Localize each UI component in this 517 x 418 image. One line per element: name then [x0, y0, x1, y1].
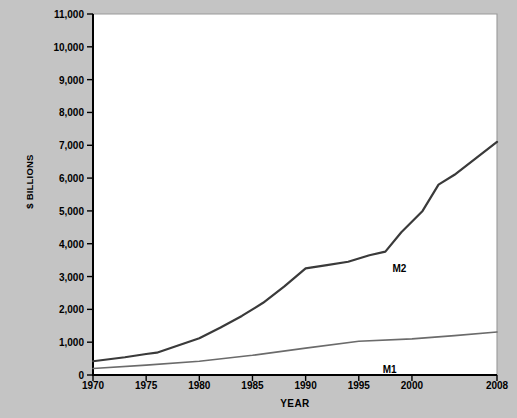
plot-canvas — [0, 0, 517, 418]
x-tick-label: 2008 — [486, 380, 508, 391]
x-tick-label: 1980 — [188, 380, 210, 391]
series-label-m2: M2 — [392, 263, 406, 274]
x-tick-label: 2000 — [401, 380, 423, 391]
plot-area-background — [93, 14, 497, 375]
x-tick-label: 1985 — [241, 380, 263, 391]
money-supply-line-chart: $ BILLIONS 01,0002,0003,0004,0005,0006,0… — [0, 0, 517, 418]
x-tick-label: 1995 — [348, 380, 370, 391]
x-tick-label: 1975 — [135, 380, 157, 391]
x-axis-title: YEAR — [93, 398, 497, 409]
series-label-m1: M1 — [383, 364, 397, 375]
x-tick-label: 1990 — [295, 380, 317, 391]
x-tick-label: 1970 — [82, 380, 104, 391]
